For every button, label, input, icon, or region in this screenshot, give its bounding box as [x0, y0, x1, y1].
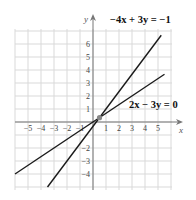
y-tick-label: 2 — [86, 92, 90, 101]
equation-label-2: 2x − 3y = 0 — [129, 99, 178, 110]
y-tick-label: 1 — [86, 105, 90, 114]
y-tick-label: 6 — [86, 40, 90, 49]
y-tick-label: −3 — [81, 157, 90, 166]
x-tick-label: 1 — [104, 124, 108, 133]
y-tick-label: 4 — [86, 66, 90, 75]
graph: −5−4−3−2−112345−4−3−2123456 y x −4x + 3y… — [0, 0, 196, 200]
y-axis-label: y — [83, 14, 88, 24]
equation-label-1: −4x + 3y = −1 — [110, 14, 171, 25]
x-tick-label: 2 — [117, 124, 121, 133]
intersection-point — [97, 115, 102, 120]
x-tick-label: −2 — [63, 124, 72, 133]
x-tick-label: 3 — [130, 124, 134, 133]
y-tick-label: 3 — [86, 79, 90, 88]
x-tick-label: −3 — [50, 124, 59, 133]
x-tick-label: −5 — [24, 124, 33, 133]
x-tick-label: 4 — [143, 124, 147, 133]
y-tick-label: −2 — [81, 144, 90, 153]
x-tick-label: 5 — [156, 124, 160, 133]
x-tick-label: −4 — [37, 124, 46, 133]
y-tick-label: 5 — [86, 53, 90, 62]
y-tick-label: −4 — [81, 170, 90, 179]
x-axis-label: x — [178, 125, 183, 135]
series-line-1 — [48, 35, 162, 187]
